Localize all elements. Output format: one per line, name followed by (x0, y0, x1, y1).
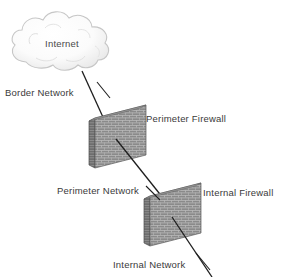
leader-internal-network (196, 253, 210, 270)
border-network-label: Border Network (5, 87, 74, 98)
internet-label: Internet (45, 38, 79, 49)
leader-border-network (97, 82, 110, 98)
network-diagram: Internet Border Network Perimeter Fi (0, 0, 281, 277)
perimeter-network-label: Perimeter Network (57, 185, 139, 196)
perimeter-firewall-icon (89, 105, 146, 168)
internal-firewall-label: Internal Firewall (203, 187, 273, 198)
diagram-canvas: Internet Border Network Perimeter Fi (0, 0, 281, 277)
perimeter-firewall-label: Perimeter Firewall (146, 113, 226, 124)
internal-network-label: Internal Network (113, 259, 185, 270)
